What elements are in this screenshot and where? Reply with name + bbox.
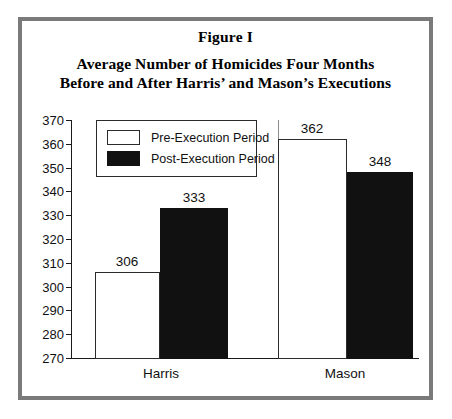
y-tick-mark bbox=[66, 310, 72, 311]
y-tick-mark bbox=[66, 168, 72, 169]
y-tick-mark bbox=[66, 144, 72, 145]
category-label-mason: Mason bbox=[285, 366, 405, 381]
y-tick-mark bbox=[66, 287, 72, 288]
category-label-harris: Harris bbox=[101, 366, 221, 381]
y-tick-label: 360 bbox=[24, 137, 64, 150]
bar-value-mason-post: 348 bbox=[350, 155, 410, 169]
legend-label-post-execution: Post-Execution Period bbox=[151, 152, 275, 166]
y-tick-label: 370 bbox=[24, 114, 64, 127]
bar-value-harris-pre: 306 bbox=[97, 255, 157, 269]
legend: Pre-Execution Period Post-Execution Peri… bbox=[96, 120, 257, 177]
y-tick-label: 330 bbox=[24, 209, 64, 222]
y-tick-mark bbox=[66, 334, 72, 335]
y-tick-mark bbox=[66, 215, 72, 216]
y-tick-label: 320 bbox=[24, 233, 64, 246]
bar-mason-post[interactable] bbox=[347, 172, 413, 359]
bar-mason-pre[interactable] bbox=[278, 139, 347, 359]
y-tick-label: 310 bbox=[24, 256, 64, 269]
legend-swatch-pre-execution bbox=[107, 130, 140, 145]
bar-value-harris-post: 333 bbox=[164, 191, 224, 205]
figure-inner: Figure I Average Number of Homicides Fou… bbox=[22, 21, 429, 396]
y-tick-mark bbox=[66, 358, 72, 359]
y-tick-label: 340 bbox=[24, 185, 64, 198]
legend-label-pre-execution: Pre-Execution Period bbox=[151, 131, 269, 145]
y-tick-mark bbox=[66, 191, 72, 192]
figure-frame: Figure I Average Number of Homicides Fou… bbox=[18, 17, 433, 400]
y-tick-label: 280 bbox=[24, 328, 64, 341]
legend-item-pre-execution[interactable]: Pre-Execution Period bbox=[107, 127, 256, 148]
plot-area: 370 360 350 340 330 320 bbox=[22, 21, 429, 396]
y-tick-mark bbox=[66, 263, 72, 264]
bar-value-mason-pre: 362 bbox=[282, 122, 342, 136]
y-tick-label: 350 bbox=[24, 161, 64, 174]
y-tick-label: 290 bbox=[24, 304, 64, 317]
y-tick-mark bbox=[66, 120, 72, 121]
y-tick-label: 300 bbox=[24, 280, 64, 293]
bar-harris-post[interactable] bbox=[160, 208, 228, 359]
y-tick-mark bbox=[66, 239, 72, 240]
legend-item-post-execution[interactable]: Post-Execution Period bbox=[107, 148, 256, 169]
y-tick-label: 270 bbox=[24, 352, 64, 365]
bar-harris-pre[interactable] bbox=[95, 272, 160, 359]
legend-swatch-post-execution bbox=[107, 151, 140, 166]
